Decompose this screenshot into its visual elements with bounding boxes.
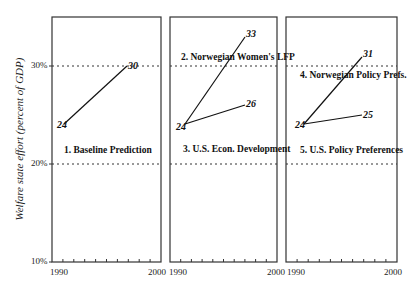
x-tick-2000-p2: 2000 bbox=[267, 267, 285, 277]
series-us-policy-preferences bbox=[304, 115, 362, 124]
x-tick-2000-p1: 2000 bbox=[148, 267, 166, 277]
p1-title: 1. Baseline Prediction bbox=[64, 145, 152, 155]
panel-3-frame bbox=[286, 17, 397, 262]
x-tick-1990-p1: 1990 bbox=[50, 267, 68, 277]
y-tick-20: 20% bbox=[31, 158, 48, 168]
p2-title-b: 3. U.S. Econ. Development bbox=[183, 144, 290, 154]
y-tick-10: 10% bbox=[31, 256, 48, 266]
p3-start-value: 24 bbox=[295, 119, 305, 130]
p3-end-a-value: 31 bbox=[363, 48, 373, 59]
series-norwegian-policy-prefs bbox=[304, 57, 362, 124]
p2-end-b-value: 26 bbox=[246, 98, 256, 109]
series-us-econ-development bbox=[185, 105, 245, 124]
x-tick-1990-p3: 1990 bbox=[287, 267, 305, 277]
x-tick-2000-p3: 2000 bbox=[384, 267, 402, 277]
p3-end-b-value: 25 bbox=[363, 109, 373, 120]
p1-start-value: 24 bbox=[57, 119, 67, 130]
series-baseline bbox=[64, 66, 127, 124]
p3-title-b: 5. U.S. Policy Preferences bbox=[300, 145, 403, 155]
series-norwegian-womens-lfp bbox=[185, 37, 245, 124]
y-tick-30: 30% bbox=[31, 60, 48, 70]
p2-title-a: 2. Norwegian Women's LFP bbox=[181, 52, 295, 62]
p3-title-a: 4. Norwegian Policy Prefs. bbox=[300, 70, 407, 80]
panel-1-frame bbox=[52, 17, 161, 262]
p2-end-a-value: 33 bbox=[246, 28, 256, 39]
p1-end-value: 30 bbox=[128, 60, 138, 71]
p2-start-value: 24 bbox=[176, 121, 186, 132]
data-lines bbox=[64, 37, 362, 124]
x-tick-1990-p2: 1990 bbox=[169, 267, 187, 277]
